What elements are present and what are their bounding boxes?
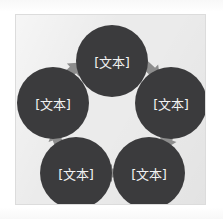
node-bottom-left[interactable]: [文本] xyxy=(40,137,112,205)
cycle-diagram: [文本] [文本] [文本] [文本] [文本] xyxy=(16,15,206,205)
node-right[interactable]: [文本] xyxy=(135,67,206,139)
node-bottom-right-label: [文本] xyxy=(131,167,166,182)
node-top-label: [文本] xyxy=(94,55,129,70)
diagram-panel: [文本] [文本] [文本] [文本] [文本] xyxy=(15,14,206,205)
node-right-label: [文本] xyxy=(153,97,188,112)
diagram-canvas: [文本] [文本] [文本] [文本] [文本] xyxy=(0,0,223,219)
node-left[interactable]: [文本] xyxy=(17,67,89,139)
node-bottom-right[interactable]: [文本] xyxy=(113,137,185,205)
node-top[interactable]: [文本] xyxy=(76,25,148,97)
node-left-label: [文本] xyxy=(35,97,70,112)
node-bottom-left-label: [文本] xyxy=(58,167,93,182)
node-group: [文本] [文本] [文本] [文本] [文本] xyxy=(17,25,206,205)
